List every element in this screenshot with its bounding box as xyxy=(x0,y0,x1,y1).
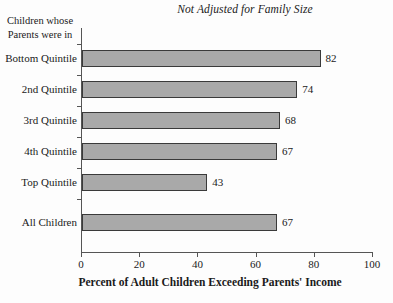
y-tick-3 xyxy=(77,137,81,138)
y-tick-5 xyxy=(77,199,81,200)
x-tick-label-40: 40 xyxy=(177,258,217,270)
y-tick-0 xyxy=(77,44,81,45)
category-label-3: 4th Quintile xyxy=(0,145,77,157)
bar-2nd-quintile xyxy=(82,81,297,98)
chart-title: Not Adjusted for Family Size xyxy=(110,3,380,15)
category-label-2: 3rd Quintile xyxy=(0,114,77,126)
x-tick-label-60: 60 xyxy=(236,258,276,270)
bar-value-5: 67 xyxy=(282,216,293,228)
x-tick-label-100: 100 xyxy=(352,258,392,270)
bar-top-quintile xyxy=(82,174,207,191)
y-axis-header: Children whose Parents were in xyxy=(2,14,78,42)
x-tick-label-0: 0 xyxy=(61,258,101,270)
x-axis-title: Percent of Adult Children Exceeding Pare… xyxy=(40,276,380,288)
bar-chart: Not Adjusted for Family Size Children wh… xyxy=(0,0,393,303)
x-tick-0 xyxy=(81,253,82,257)
category-label-1: 2nd Quintile xyxy=(0,83,77,95)
x-tick-label-80: 80 xyxy=(294,258,334,270)
bar-3rd-quintile xyxy=(82,112,280,129)
bar-4th-quintile xyxy=(82,143,277,160)
y-tick-4 xyxy=(77,168,81,169)
y-tick-1 xyxy=(77,75,81,76)
x-tick-100 xyxy=(372,253,373,257)
bar-value-1: 74 xyxy=(302,83,313,95)
x-tick-80 xyxy=(314,253,315,257)
x-tick-40 xyxy=(197,253,198,257)
x-tick-20 xyxy=(139,253,140,257)
category-label-0: Bottom Quintile xyxy=(0,52,77,64)
category-label-4: Top Quintile xyxy=(0,176,77,188)
y-axis-header-line-2: Parents were in xyxy=(2,28,78,42)
x-tick-label-20: 20 xyxy=(119,258,159,270)
bar-value-0: 82 xyxy=(326,52,337,64)
x-axis-line xyxy=(81,252,373,253)
x-tick-60 xyxy=(256,253,257,257)
bar-all-children xyxy=(82,214,277,231)
category-label-5: All Children xyxy=(0,216,77,228)
bar-value-2: 68 xyxy=(285,114,296,126)
y-tick-2 xyxy=(77,106,81,107)
bar-bottom-quintile xyxy=(82,50,321,67)
bar-value-4: 43 xyxy=(212,176,223,188)
y-axis-header-line-1: Children whose xyxy=(2,14,78,28)
bar-value-3: 67 xyxy=(282,145,293,157)
